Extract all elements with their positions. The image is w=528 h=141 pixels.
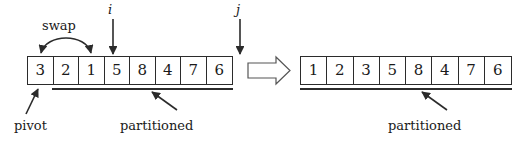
partitioned-label-right: partitioned <box>388 119 461 132</box>
array-cell: 7 <box>459 57 485 84</box>
array-cell: 6 <box>485 57 511 84</box>
array-cell: 2 <box>54 57 80 84</box>
array-cell: 7 <box>181 57 207 84</box>
array-cell: 3 <box>28 57 54 84</box>
swap-label: swap <box>42 19 76 32</box>
before-array: 3 2 1 5 8 4 7 6 <box>27 56 233 85</box>
array-cell: 5 <box>105 57 131 84</box>
partitioned-label-left: partitioned <box>120 119 193 132</box>
quicksort-partition-diagram: 3 2 1 5 8 4 7 6 1 2 3 5 8 4 7 6 <box>0 0 528 141</box>
pivot-arrow-icon <box>26 89 38 114</box>
array-cell: 2 <box>327 57 353 84</box>
array-cell: 3 <box>354 57 380 84</box>
array-cell: 6 <box>207 57 232 84</box>
partitioned-arrow-left-icon <box>152 92 177 110</box>
array-cell: 4 <box>432 57 458 84</box>
array-cell: 1 <box>79 57 105 84</box>
after-array: 1 2 3 5 8 4 7 6 <box>300 56 512 85</box>
array-cell: 1 <box>301 57 327 84</box>
index-i-label: i <box>108 3 112 16</box>
after-partitioned-bar <box>300 88 512 90</box>
array-cell: 8 <box>130 57 156 84</box>
pivot-label: pivot <box>14 119 47 132</box>
array-cell: 8 <box>406 57 432 84</box>
swap-arrow-icon <box>41 38 91 53</box>
array-cell: 4 <box>156 57 182 84</box>
before-partitioned-bar <box>52 88 233 90</box>
index-j-label: j <box>236 3 240 16</box>
partitioned-arrow-right-icon <box>422 92 447 110</box>
array-cell: 5 <box>380 57 406 84</box>
right-double-arrow-icon <box>248 57 290 84</box>
